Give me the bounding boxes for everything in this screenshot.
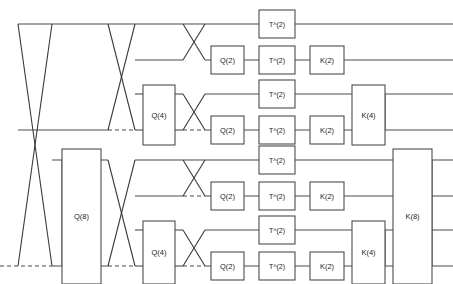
q4-gate-lower-box[interactable] <box>143 221 175 284</box>
q2-gate-3-box[interactable] <box>211 182 244 210</box>
q8-gate-box[interactable] <box>62 149 101 284</box>
t2-gate-7[interactable]: T^(2) <box>259 216 295 244</box>
k2-gate-3-box[interactable] <box>310 182 344 210</box>
t2-gate-5-box[interactable] <box>259 146 295 174</box>
t2-gate-2-box[interactable] <box>259 46 295 74</box>
circuit-canvas: Q(8)Q(4)Q(4)Q(2)Q(2)Q(2)Q(2)T^(2)T^(2)T^… <box>0 0 453 284</box>
k2-gate-2-box[interactable] <box>310 116 344 144</box>
q2-gate-1-box[interactable] <box>211 46 244 74</box>
q2-gate-4-box[interactable] <box>211 252 244 280</box>
q2-gate-1[interactable]: Q(2) <box>211 46 244 74</box>
t2-gate-6-box[interactable] <box>259 182 295 210</box>
k2-gate-1[interactable]: K(2) <box>310 46 344 74</box>
q2-gate-2[interactable]: Q(2) <box>211 116 244 144</box>
swap-level-2-b <box>183 94 205 130</box>
k4-gate-upper-box[interactable] <box>352 85 385 145</box>
k4-gate-upper[interactable]: K(4) <box>352 85 385 145</box>
t2-gate-6[interactable]: T^(2) <box>259 182 295 210</box>
k2-gate-4-box[interactable] <box>310 252 344 280</box>
q2-gate-3[interactable]: Q(2) <box>211 182 244 210</box>
k2-gate-1-box[interactable] <box>310 46 344 74</box>
t2-gate-5[interactable]: T^(2) <box>259 146 295 174</box>
t2-gate-8[interactable]: T^(2) <box>259 252 295 280</box>
t2-gate-3[interactable]: T^(2) <box>259 80 295 108</box>
t2-gate-4[interactable]: T^(2) <box>259 116 295 144</box>
swap-level-2-a <box>183 24 205 60</box>
q4-gate-upper[interactable]: Q(4) <box>143 85 175 145</box>
q2-gate-2-box[interactable] <box>211 116 244 144</box>
k8-gate[interactable]: K(8) <box>393 149 432 284</box>
gate-layer: Q(8)Q(4)Q(4)Q(2)Q(2)Q(2)Q(2)T^(2)T^(2)T^… <box>62 10 432 284</box>
q2-gate-4[interactable]: Q(2) <box>211 252 244 280</box>
t2-gate-4-box[interactable] <box>259 116 295 144</box>
t2-gate-1-box[interactable] <box>259 10 295 38</box>
swap-level-4-lower <box>108 160 135 266</box>
k2-gate-2[interactable]: K(2) <box>310 116 344 144</box>
k2-gate-3[interactable]: K(2) <box>310 182 344 210</box>
k4-gate-lower[interactable]: K(4) <box>352 221 385 284</box>
quantum-circuit-diagram: Q(8)Q(4)Q(4)Q(2)Q(2)Q(2)Q(2)T^(2)T^(2)T^… <box>0 0 453 284</box>
t2-gate-2[interactable]: T^(2) <box>259 46 295 74</box>
swap-level-8 <box>18 24 52 266</box>
swap-level-2-d <box>183 230 205 266</box>
k2-gate-4[interactable]: K(2) <box>310 252 344 280</box>
q8-gate[interactable]: Q(8) <box>62 149 101 284</box>
k4-gate-lower-box[interactable] <box>352 221 385 284</box>
t2-gate-1[interactable]: T^(2) <box>259 10 295 38</box>
t2-gate-7-box[interactable] <box>259 216 295 244</box>
t2-gate-3-box[interactable] <box>259 80 295 108</box>
swap-level-2-c <box>183 160 205 196</box>
k8-gate-box[interactable] <box>393 149 432 284</box>
swap-level-4-upper <box>108 24 135 130</box>
q4-gate-lower[interactable]: Q(4) <box>143 221 175 284</box>
t2-gate-8-box[interactable] <box>259 252 295 280</box>
q4-gate-upper-box[interactable] <box>143 85 175 145</box>
